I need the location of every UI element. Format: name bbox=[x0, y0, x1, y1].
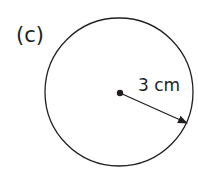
circle-diagram: (c) 3 cm bbox=[0, 0, 198, 178]
radius-arrow bbox=[120, 93, 187, 123]
radius-label: 3 cm bbox=[138, 75, 180, 95]
part-label: (c) bbox=[16, 23, 44, 47]
